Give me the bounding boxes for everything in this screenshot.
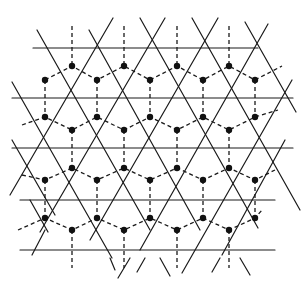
vertex-dot bbox=[174, 227, 180, 233]
vertex-dot bbox=[226, 63, 232, 69]
vertex-dot bbox=[121, 165, 127, 171]
vertex-dot bbox=[147, 215, 153, 221]
vertex-dot bbox=[226, 227, 232, 233]
diagonal-line bbox=[12, 140, 55, 215]
vertex-dot bbox=[42, 114, 48, 120]
diagonal-line bbox=[160, 258, 170, 276]
vertex-dot bbox=[252, 215, 258, 221]
vertex-dot bbox=[121, 63, 127, 69]
vertex-dot bbox=[69, 127, 75, 133]
diagonal-line bbox=[110, 258, 115, 270]
vertex-dot bbox=[121, 227, 127, 233]
diagonal-line bbox=[182, 80, 292, 273]
vertex-dot bbox=[174, 63, 180, 69]
vertex-dot bbox=[200, 215, 206, 221]
vertex-dot bbox=[174, 165, 180, 171]
diagonal-line bbox=[222, 140, 285, 255]
vertex-dot bbox=[42, 177, 48, 183]
vertex-dot bbox=[252, 77, 258, 83]
vertex-dot bbox=[174, 127, 180, 133]
vertex-dot bbox=[147, 114, 153, 120]
vertex-dot bbox=[94, 215, 100, 221]
vertex-dot bbox=[69, 227, 75, 233]
lattice-diagram bbox=[0, 0, 306, 295]
vertex-dot bbox=[121, 127, 127, 133]
diagonal-line bbox=[137, 258, 145, 272]
vertex-dot bbox=[200, 77, 206, 83]
vertex-dot bbox=[69, 63, 75, 69]
diagonal-line bbox=[90, 18, 218, 240]
vertex-dot bbox=[94, 77, 100, 83]
vertex-dot bbox=[200, 114, 206, 120]
diagonal-line bbox=[192, 18, 300, 210]
vertex-dot bbox=[252, 177, 258, 183]
vertex-dot bbox=[226, 127, 232, 133]
vertex-dot bbox=[42, 77, 48, 83]
vertex-dot bbox=[226, 165, 232, 171]
diagonal-line bbox=[212, 258, 220, 272]
vertex-dot bbox=[200, 177, 206, 183]
vertex-dot bbox=[252, 114, 258, 120]
diagonal-line bbox=[240, 258, 250, 275]
vertex-dot bbox=[94, 177, 100, 183]
vertex-dot bbox=[147, 77, 153, 83]
diagonal-line bbox=[32, 230, 45, 255]
vertex-dot bbox=[147, 177, 153, 183]
vertex-dot bbox=[42, 215, 48, 221]
vertex-dot bbox=[94, 114, 100, 120]
vertex-dot bbox=[69, 165, 75, 171]
